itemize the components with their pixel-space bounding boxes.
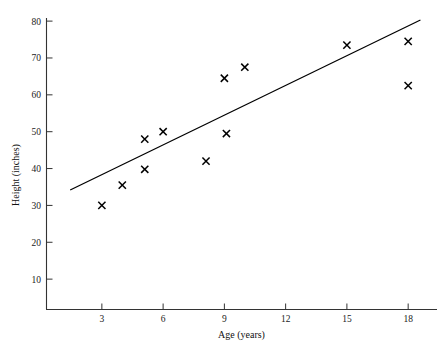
data-point-marker [405, 82, 412, 89]
y-axis-ticks: 1020304050607080 [32, 17, 53, 285]
trend-line-group [70, 20, 420, 190]
data-points-group [98, 38, 412, 209]
y-tick-label: 20 [32, 238, 42, 248]
y-tick-label: 10 [32, 275, 42, 285]
y-tick-label: 50 [32, 127, 42, 137]
x-axis-title: Age (years) [218, 329, 265, 341]
y-tick-label: 70 [32, 53, 42, 63]
y-tick-label: 40 [32, 164, 42, 174]
data-point-marker [119, 182, 126, 189]
x-axis-ticks: 369121518 [99, 304, 413, 325]
y-tick-label: 80 [32, 17, 42, 27]
x-tick-label: 9 [222, 314, 227, 324]
x-tick-label: 15 [342, 314, 352, 324]
regression-line [70, 20, 420, 190]
x-tick-label: 18 [403, 314, 413, 324]
data-point-marker [241, 64, 248, 71]
y-axis-title: Height (inches) [10, 144, 22, 206]
x-tick-label: 12 [281, 314, 291, 324]
data-point-marker [202, 158, 209, 165]
data-point-marker [160, 128, 167, 135]
chart-canvas: 1020304050607080 369121518 Age (years) H… [0, 0, 444, 350]
x-tick-label: 3 [99, 314, 104, 324]
data-point-marker [98, 202, 105, 209]
data-point-marker [405, 38, 412, 45]
data-point-marker [141, 135, 148, 142]
data-point-marker [141, 166, 148, 173]
data-point-marker [343, 41, 350, 48]
y-tick-label: 30 [32, 201, 42, 211]
data-point-marker [223, 130, 230, 137]
data-point-marker [221, 75, 228, 82]
x-tick-label: 6 [161, 314, 166, 324]
y-tick-label: 60 [32, 90, 42, 100]
scatter-plot-figure: 1020304050607080 369121518 Age (years) H… [0, 0, 444, 350]
